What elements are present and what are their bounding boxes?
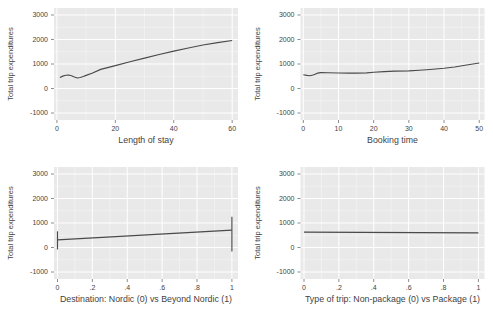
y-axis-title: Total trip expenditures <box>253 27 262 101</box>
x-tick-label: 0 <box>55 125 59 132</box>
y-tick-label: -1000 <box>277 268 295 275</box>
x-tick-label: 60 <box>228 125 236 132</box>
chart-length-of-stay: 0204060-10000100020003000Length of stayT… <box>0 0 246 159</box>
x-tick-label: 40 <box>170 125 178 132</box>
x-axis-title: Type of trip: Non-package (0) vs Package… <box>305 294 480 304</box>
y-tick-label: 3000 <box>279 170 295 177</box>
y-tick-label: 0 <box>44 244 48 251</box>
y-tick-label: 1000 <box>279 219 295 226</box>
lowess-plots-figure: 0204060-10000100020003000Length of stayT… <box>0 0 493 318</box>
x-tick-label: .4 <box>124 284 130 291</box>
y-tick-label: -1000 <box>30 268 48 275</box>
lowess-smooth-line <box>304 232 478 233</box>
y-axis-title: Total trip expenditures <box>6 27 15 101</box>
y-tick-label: 0 <box>44 85 48 92</box>
x-tick-label: 30 <box>405 125 413 132</box>
x-tick-label: 40 <box>440 125 448 132</box>
x-tick-label: 1 <box>476 284 480 291</box>
plot-length-of-stay: 0204060-10000100020003000Length of stayT… <box>0 0 246 159</box>
y-tick-label: 2000 <box>279 36 295 43</box>
x-tick-label: 20 <box>111 125 119 132</box>
x-tick-label: .6 <box>406 284 412 291</box>
y-tick-label: 1000 <box>279 60 295 67</box>
x-tick-label: .2 <box>89 284 95 291</box>
x-tick-label: .2 <box>336 284 342 291</box>
x-tick-label: .8 <box>194 284 200 291</box>
x-tick-label: 0 <box>56 284 60 291</box>
x-tick-label: 0 <box>302 284 306 291</box>
y-tick-label: 3000 <box>32 170 48 177</box>
y-tick-label: 2000 <box>32 36 48 43</box>
y-tick-label: 0 <box>291 85 295 92</box>
x-tick-label: 0 <box>301 125 305 132</box>
chart-trip-type: 0.2.4.6.81-10000100020003000Type of trip… <box>246 159 493 318</box>
x-tick-label: 1 <box>230 284 234 291</box>
plot-booking-time: 01020304050-10000100020003000Booking tim… <box>246 0 493 159</box>
x-tick-label: .4 <box>371 284 377 291</box>
y-tick-label: 1000 <box>32 60 48 67</box>
chart-destination: 0.2.4.6.81-10000100020003000Destination:… <box>0 159 246 318</box>
x-tick-label: 10 <box>335 125 343 132</box>
y-axis-title: Total trip expenditures <box>6 186 15 260</box>
y-tick-label: 3000 <box>279 11 295 18</box>
y-tick-label: 3000 <box>32 11 48 18</box>
y-tick-label: 1000 <box>32 219 48 226</box>
y-axis-title: Total trip expenditures <box>253 186 262 260</box>
y-tick-label: 2000 <box>279 195 295 202</box>
x-axis-title: Length of stay <box>118 135 174 145</box>
x-tick-label: 20 <box>370 125 378 132</box>
y-tick-label: 2000 <box>32 195 48 202</box>
y-tick-label: -1000 <box>30 109 48 116</box>
x-tick-label: .8 <box>441 284 447 291</box>
x-axis-title: Destination: Nordic (0) vs Beyond Nordic… <box>60 294 232 304</box>
plot-trip-type: 0.2.4.6.81-10000100020003000Type of trip… <box>246 159 493 318</box>
y-tick-label: -1000 <box>277 109 295 116</box>
x-axis-title: Booking time <box>367 135 418 145</box>
y-tick-label: 0 <box>291 244 295 251</box>
x-tick-label: 50 <box>475 125 483 132</box>
x-tick-label: .6 <box>159 284 165 291</box>
plot-destination: 0.2.4.6.81-10000100020003000Destination:… <box>0 159 246 318</box>
chart-booking-time: 01020304050-10000100020003000Booking tim… <box>246 0 493 159</box>
